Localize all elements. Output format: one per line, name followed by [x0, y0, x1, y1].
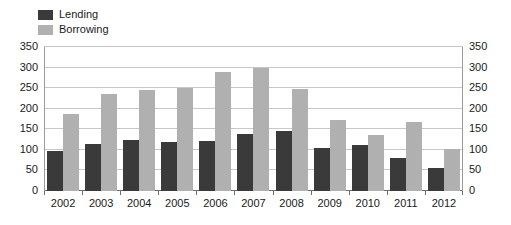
plot-area	[44, 47, 463, 191]
y-axis-tick-label: 0	[4, 185, 38, 196]
y-axis-tick-label: 50	[469, 164, 503, 175]
x-axis-tick-mark	[82, 191, 83, 195]
x-axis-label: 2010	[349, 197, 387, 209]
bar-borrowing	[177, 88, 193, 191]
x-axis-tick-mark	[311, 191, 312, 195]
legend-entry: Lending	[38, 8, 109, 21]
bars-layer	[44, 47, 463, 191]
bar-group	[120, 47, 158, 191]
bar-group	[234, 47, 272, 191]
y-axis-tick-label: 0	[469, 185, 503, 196]
x-axis-tick-mark	[387, 191, 388, 195]
y-axis-tick-label: 150	[4, 123, 38, 134]
x-axis-tick-mark	[158, 191, 159, 195]
bar-borrowing	[139, 90, 155, 191]
x-axis-label: 2003	[82, 197, 120, 209]
x-axis-label: 2012	[425, 197, 463, 209]
x-axis-label: 2006	[196, 197, 234, 209]
y-axis-tick-label: 250	[469, 82, 503, 93]
x-axis: 2002200320042005200620072008200920102011…	[44, 191, 463, 225]
y-axis-tick-label: 350	[469, 41, 503, 52]
bar-lending	[47, 151, 63, 191]
bar-group	[273, 47, 311, 191]
y-axis-tick-label: 300	[4, 62, 38, 73]
y-axis-tick-label: 200	[469, 103, 503, 114]
x-axis-label: 2007	[234, 197, 272, 209]
bar-group	[311, 47, 349, 191]
bar-borrowing	[63, 114, 79, 191]
x-axis-tick-mark	[234, 191, 235, 195]
bar-lending	[276, 131, 292, 191]
bar-group	[158, 47, 196, 191]
bar-group	[387, 47, 425, 191]
y-axis-tick-label: 100	[469, 144, 503, 155]
x-axis-tick-mark	[425, 191, 426, 195]
bar-group	[425, 47, 463, 191]
bar-borrowing	[444, 149, 460, 191]
y-axis-tick-label: 150	[469, 123, 503, 134]
y-axis-tick-label: 200	[4, 103, 38, 114]
x-axis-label: 2011	[387, 197, 425, 209]
x-axis-tick-mark	[273, 191, 274, 195]
chart-legend: LendingBorrowing	[38, 8, 109, 36]
x-axis-tick-mark	[462, 191, 463, 195]
x-axis-tick-mark	[120, 191, 121, 195]
bar-group	[196, 47, 234, 191]
bar-borrowing	[101, 94, 117, 192]
x-axis-label: 2002	[44, 197, 82, 209]
bar-group	[44, 47, 82, 191]
y-axis-tick-label: 250	[4, 82, 38, 93]
legend-swatch-icon	[38, 25, 53, 35]
x-axis-label: 2008	[273, 197, 311, 209]
bar-group	[82, 47, 120, 191]
y-axis-left-labels: 050100150200250300350	[4, 47, 38, 191]
bar-lending	[199, 141, 215, 191]
x-axis-label: 2009	[311, 197, 349, 209]
bar-lending	[237, 134, 253, 191]
bar-borrowing	[292, 89, 308, 191]
bar-lending	[352, 145, 368, 191]
y-axis-tick-label: 300	[469, 62, 503, 73]
bar-lending	[123, 140, 139, 191]
bar-borrowing	[253, 68, 269, 191]
legend-entry: Borrowing	[38, 23, 109, 36]
y-axis-tick-label: 350	[4, 41, 38, 52]
bar-chart: LendingBorrowing 050100150200250300350 0…	[0, 0, 511, 225]
y-axis-right-labels: 050100150200250300350	[469, 47, 503, 191]
bar-lending	[428, 168, 444, 191]
y-axis-tick-label: 100	[4, 144, 38, 155]
bar-borrowing	[406, 122, 422, 191]
bar-lending	[161, 142, 177, 191]
y-axis-tick-label: 50	[4, 164, 38, 175]
x-axis-label: 2005	[158, 197, 196, 209]
bar-borrowing	[215, 72, 231, 191]
legend-label: Borrowing	[59, 24, 109, 35]
x-axis-tick-mark	[349, 191, 350, 195]
bar-borrowing	[368, 135, 384, 191]
bar-lending	[85, 144, 101, 191]
bar-lending	[314, 148, 330, 191]
bar-borrowing	[330, 120, 346, 191]
x-axis-label: 2004	[120, 197, 158, 209]
legend-swatch-icon	[38, 10, 53, 20]
legend-label: Lending	[59, 9, 98, 20]
x-axis-tick-mark	[44, 191, 45, 195]
x-axis-tick-mark	[196, 191, 197, 195]
bar-group	[349, 47, 387, 191]
bar-lending	[390, 158, 406, 191]
